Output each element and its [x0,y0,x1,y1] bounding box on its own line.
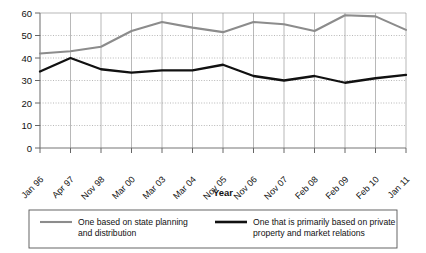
plot-area [40,13,406,148]
chart-canvas: 60 50 40 30 20 10 0 Jan 96 Ap [0,0,426,253]
x-tick-label: Mar 04 [171,174,198,201]
x-tick-label: Feb 08 [293,174,320,201]
x-tick-label: Nov 06 [232,174,259,201]
x-axis-title: Year [213,187,233,198]
x-tick-label: Apr 97 [50,174,76,200]
y-tick-label: 50 [21,30,32,41]
legend-label-line2: and distribution [78,228,137,238]
x-tick-marks [40,148,406,153]
x-tick-label: Nov 98 [79,174,106,201]
x-tick-label: Mar 03 [141,174,168,201]
x-tick-label: Jan 96 [19,174,45,200]
x-tick-label: Nov 07 [262,174,289,201]
x-tick-label: Jan 11 [386,174,412,200]
y-tick-label: 60 [21,8,32,19]
y-tick-labels: 60 50 40 30 20 10 0 [21,8,32,154]
y-tick-label: 20 [21,98,32,109]
y-tick-label: 0 [27,143,32,154]
y-tick-marks [35,13,40,148]
x-tick-label: Feb 10 [354,174,381,201]
y-tick-label: 10 [21,120,32,131]
x-tick-label: Mar 00 [110,174,137,201]
legend-label-line2: property and market relations [253,228,365,238]
line-chart-figure: 60 50 40 30 20 10 0 Jan 96 Ap [0,0,426,253]
y-tick-label: 30 [21,75,32,86]
legend-label-line1: One based on state planning [78,217,188,227]
legend-label-line1: One that is primarily based on private [253,217,396,227]
legend: One based on state planning and distribu… [29,210,397,248]
y-tick-label: 40 [21,53,32,64]
x-tick-label: Feb 09 [324,174,351,201]
